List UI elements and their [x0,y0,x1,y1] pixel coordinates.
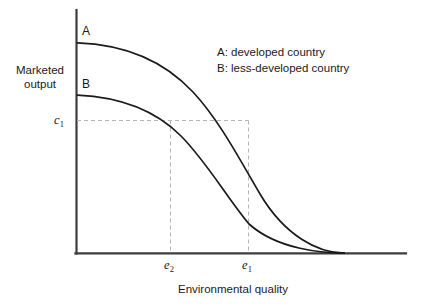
curve-b-label: B [82,77,90,91]
chart-legend: A: developed country B: less-developed c… [217,44,349,76]
legend-item-a: A: developed country [217,44,349,60]
x-tick-e2-subscript: 2 [170,264,174,274]
legend-item-b: B: less-developed country [217,60,349,76]
y-tick-c1-symbol: c [54,113,60,127]
y-axis-title-line2: output [8,77,72,91]
x-axis-title: Environmental quality [178,282,288,296]
y-axis-title-line1: Marketed [8,63,72,77]
chart-plot-area [0,0,423,306]
x-tick-label-e1: e1 [242,258,252,273]
ppf-chart-figure: Marketed output Environmental quality A … [0,0,423,306]
curve-b-less-developed-country [78,95,345,253]
y-axis-title: Marketed output [8,63,72,91]
x-tick-e1-subscript: 1 [248,264,252,274]
x-tick-e1-symbol: e [242,258,248,272]
y-tick-c1-subscript: 1 [60,119,64,129]
y-tick-label-c1: c1 [54,113,64,128]
curve-a-label: A [82,24,90,38]
x-tick-e2-symbol: e [164,258,170,272]
x-tick-label-e2: e2 [164,258,174,273]
